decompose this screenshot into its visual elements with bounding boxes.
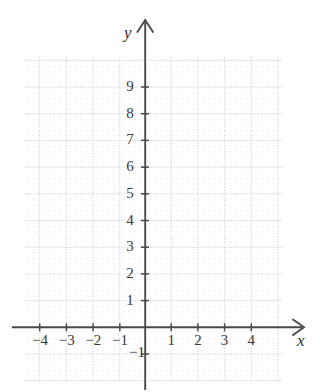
y-tick-label-2: 2 xyxy=(122,266,138,281)
y-tick-label-8: 8 xyxy=(122,106,138,121)
y-tick-label-3: 3 xyxy=(122,239,138,254)
x-tick-label-negative-4: −4 xyxy=(28,333,52,348)
y-tick-label-7: 7 xyxy=(122,132,138,147)
x-tick-label-3: 3 xyxy=(217,333,233,348)
x-tick-label-1: 1 xyxy=(163,333,179,348)
y-tick-label-6: 6 xyxy=(122,159,138,174)
x-tick-label-2: 2 xyxy=(190,333,206,348)
y-tick-label-1: 1 xyxy=(122,293,138,308)
x-axis-label: x xyxy=(297,332,305,349)
coordinate-grid-figure: y x 9 8 7 6 5 4 3 2 1 −1 −4 −3 −2 −1 1 2… xyxy=(0,0,320,392)
y-tick-label-9: 9 xyxy=(122,79,138,94)
x-tick-label-4: 4 xyxy=(243,333,259,348)
x-tick-label-negative-1: −1 xyxy=(108,333,132,348)
y-tick-label-5: 5 xyxy=(122,186,138,201)
x-tick-label-negative-2: −2 xyxy=(81,333,105,348)
y-axis-label: y xyxy=(124,24,132,41)
x-tick-label-negative-3: −3 xyxy=(55,333,79,348)
y-tick-label-4: 4 xyxy=(122,213,138,228)
